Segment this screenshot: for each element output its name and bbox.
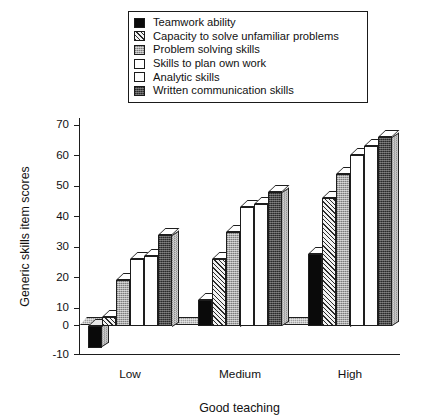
bar-face	[364, 146, 378, 326]
bar-face	[254, 204, 268, 326]
bar-face	[144, 256, 158, 326]
figure-chart: Teamwork ability Capacity to solve unfam…	[0, 0, 422, 419]
chart-legend: Teamwork ability Capacity to solve unfam…	[128, 11, 368, 103]
bar-high-skills-to-plan-own-work	[350, 155, 364, 326]
bar-face	[198, 300, 212, 326]
x-tick-label-medium: Medium	[195, 368, 285, 380]
legend-swatch-dark-stipple-icon	[134, 86, 145, 96]
y-tick-label-40: 40	[29, 211, 69, 223]
bar-side	[172, 230, 179, 326]
legend-label: Capacity to solve unfamiliar problems	[153, 31, 339, 42]
bar-low-teamwork-ability	[88, 326, 102, 347]
bar-face	[322, 198, 336, 326]
y-tick-label-60: 60	[29, 150, 69, 162]
legend-swatch-diagonal-hatch-icon	[134, 31, 145, 41]
bar-low-capacity-to-solve-unfamiliar-problems	[102, 317, 116, 326]
legend-label: Analytic skills	[153, 72, 220, 83]
plot-area: 70 60 50 40 30 20 10 0 -10	[79, 118, 400, 355]
bar-low-skills-to-plan-own-work	[130, 259, 144, 326]
bar-side	[392, 132, 399, 326]
bar-medium-problem-solving-skills	[226, 232, 240, 327]
bar-medium-capacity-to-solve-unfamiliar-problems	[212, 259, 226, 326]
legend-label: Skills to plan own work	[153, 58, 266, 69]
bar-low-analytic-skills	[144, 256, 158, 326]
legend-swatch-white-icon	[134, 59, 145, 69]
y-tick-label-70: 70	[29, 119, 69, 131]
bar-face	[350, 155, 364, 326]
bar-face	[102, 317, 116, 326]
bar-face	[158, 235, 172, 327]
x-tick-label-high: High	[305, 368, 395, 380]
legend-label: Written communication skills	[153, 85, 294, 96]
legend-item-problem-solving-skills: Problem solving skills	[134, 43, 361, 57]
legend-item-teamwork-ability: Teamwork ability	[134, 16, 361, 30]
legend-item-skills-to-plan-own-work: Skills to plan own work	[134, 57, 361, 71]
y-tick-label-minus10: -10	[29, 349, 69, 361]
bar-high-teamwork-ability	[308, 254, 322, 326]
bar-face	[268, 192, 282, 326]
bar-face	[308, 254, 322, 326]
bar-high-written-communication-skills	[378, 137, 392, 326]
bar-medium-written-communication-skills	[268, 192, 282, 326]
bar-face	[88, 326, 102, 347]
bar-side	[282, 187, 289, 326]
bar-face	[212, 259, 226, 326]
legend-swatch-white-icon	[134, 72, 145, 82]
bar-face	[130, 259, 144, 326]
legend-swatch-solid-black-icon	[134, 18, 145, 28]
y-tick-label-10: 10	[29, 302, 69, 314]
bar-series-group	[79, 118, 400, 355]
bar-face	[378, 137, 392, 326]
y-tick-label-50: 50	[29, 180, 69, 192]
legend-label: Problem solving skills	[153, 44, 260, 55]
y-axis-title: Generic skills item scores	[18, 118, 34, 355]
legend-item-capacity-to-solve-unfamiliar-problems: Capacity to solve unfamiliar problems	[134, 30, 361, 44]
legend-item-analytic-skills: Analytic skills	[134, 70, 361, 84]
bar-medium-teamwork-ability	[198, 300, 212, 326]
y-tick-label-0: 0	[29, 320, 69, 332]
bar-low-problem-solving-skills	[116, 280, 130, 326]
bar-medium-skills-to-plan-own-work	[240, 207, 254, 326]
y-tick-label-20: 20	[29, 272, 69, 284]
bar-face	[226, 232, 240, 327]
bar-high-analytic-skills	[364, 146, 378, 326]
legend-label: Teamwork ability	[153, 17, 236, 28]
bar-face	[336, 174, 350, 327]
bar-high-capacity-to-solve-unfamiliar-problems	[322, 198, 336, 326]
bar-high-problem-solving-skills	[336, 174, 350, 327]
x-tick-label-low: Low	[85, 368, 175, 380]
bar-face	[240, 207, 254, 326]
bar-medium-analytic-skills	[254, 204, 268, 326]
x-axis-title: Good teaching	[79, 401, 400, 415]
legend-item-written-communication-skills: Written communication skills	[134, 84, 361, 98]
bar-face	[116, 280, 130, 326]
y-tick-label-30: 30	[29, 241, 69, 253]
legend-swatch-gray-stipple-icon	[134, 45, 145, 55]
bar-low-written-communication-skills	[158, 235, 172, 327]
